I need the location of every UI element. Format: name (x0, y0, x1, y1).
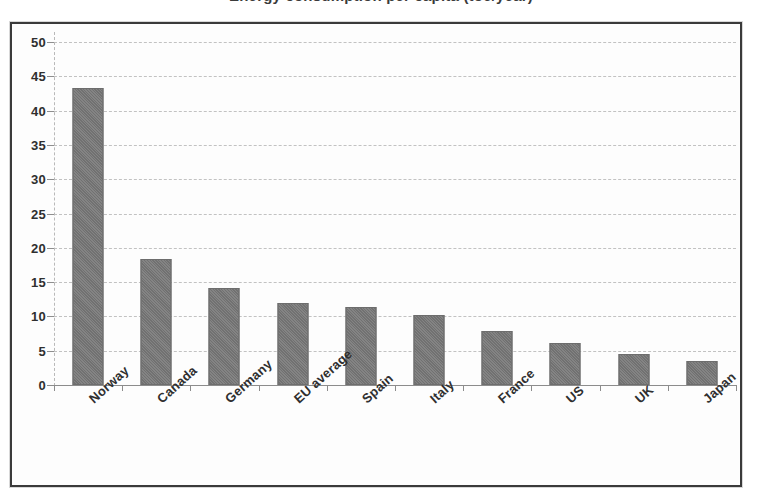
chart-title-strip: Energy consumption per capita (toe/year) (0, 0, 762, 14)
bar (414, 315, 445, 385)
bar-slot (327, 24, 395, 385)
bar-slot (531, 24, 599, 385)
y-tick-mark (47, 351, 54, 352)
x-label-slot: Norway (54, 389, 122, 479)
y-tick-label: 15 (31, 275, 46, 290)
bar (686, 361, 717, 385)
x-tick-mark (736, 385, 737, 391)
x-label-slot: Italy (395, 389, 463, 479)
x-tick-mark (395, 385, 396, 391)
x-label-slot: Canada (122, 389, 190, 479)
bar-slot (54, 24, 122, 385)
y-tick-label: 25 (31, 206, 46, 221)
bar-slot (122, 24, 190, 385)
y-tick-mark (47, 282, 54, 283)
bars-layer (54, 24, 736, 385)
y-tick-mark (47, 214, 54, 215)
bar-slot (600, 24, 668, 385)
chart-frame: 05101520253035404550 NorwayCanadaGermany… (10, 22, 742, 487)
bar-slot (395, 24, 463, 385)
x-tick-mark (531, 385, 532, 391)
bar (73, 88, 104, 385)
x-tick-mark (190, 385, 191, 391)
y-tick-label: 10 (31, 309, 46, 324)
x-tick-mark (600, 385, 601, 391)
y-tick-label: 5 (38, 343, 46, 358)
y-tick-mark (47, 42, 54, 43)
bar-slot (668, 24, 736, 385)
y-tick-mark (47, 76, 54, 77)
y-tick-label: 20 (31, 240, 46, 255)
x-label-slot: France (463, 389, 531, 479)
x-label-slot: Spain (327, 389, 395, 479)
y-tick-label: 0 (38, 378, 46, 393)
x-label-slot: UK (600, 389, 668, 479)
y-tick-label: 40 (31, 103, 46, 118)
y-axis: 05101520253035404550 (12, 24, 46, 385)
x-axis-labels: NorwayCanadaGermanyEU averageSpainItalyF… (54, 389, 736, 479)
bar (277, 303, 308, 385)
x-label-slot: EU average (259, 389, 327, 479)
y-tick-label: 35 (31, 137, 46, 152)
bar (141, 259, 172, 385)
y-tick-mark (47, 248, 54, 249)
x-tick-mark (668, 385, 669, 391)
y-tick-mark (47, 179, 54, 180)
y-tick-mark (47, 111, 54, 112)
y-tick-label: 45 (31, 69, 46, 84)
x-tick-mark (463, 385, 464, 391)
x-label-slot: US (531, 389, 599, 479)
bar (345, 307, 376, 385)
bar-slot (259, 24, 327, 385)
y-tick-mark (47, 316, 54, 317)
x-tick-mark (259, 385, 260, 391)
plot-area: 05101520253035404550 NorwayCanadaGermany… (12, 24, 740, 485)
x-tick-label: US (563, 383, 587, 407)
bar (550, 343, 581, 385)
x-tick-mark (327, 385, 328, 391)
page-title: Energy consumption per capita (toe/year) (229, 0, 533, 4)
bar (209, 288, 240, 385)
x-label-slot: Japan (668, 389, 736, 479)
y-tick-label: 50 (31, 35, 46, 50)
x-tick-mark (122, 385, 123, 391)
y-tick-label: 30 (31, 172, 46, 187)
bar-slot (463, 24, 531, 385)
x-tick-mark (54, 385, 55, 391)
x-label-slot: Germany (190, 389, 258, 479)
bar (618, 354, 649, 385)
bar-slot (190, 24, 258, 385)
y-tick-mark (47, 145, 54, 146)
bar (482, 331, 513, 385)
